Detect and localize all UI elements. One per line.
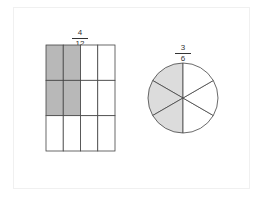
circle-pie-model (0, 0, 260, 197)
